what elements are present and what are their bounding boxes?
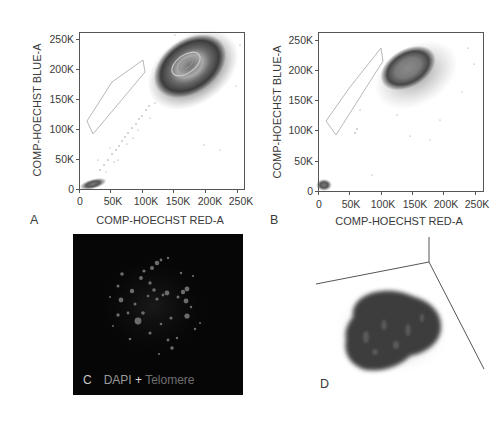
tick-label: 0 xyxy=(77,195,83,207)
tick-label: 200K xyxy=(49,63,74,75)
plot-a-y-axis-title: COMP-HOECHST BLUE-A xyxy=(31,43,43,177)
plot-b-x-axis-title: COMP-HOECHST RED-A xyxy=(335,215,463,227)
tick-label: 0 xyxy=(316,198,322,210)
tick-label: 50K xyxy=(55,153,74,165)
tick-label: 50K xyxy=(104,195,123,207)
caption-stain-telomere: Telomere xyxy=(145,373,194,387)
tick-label: 0 xyxy=(307,185,313,197)
telomere-foci xyxy=(73,234,243,395)
tick-label: 150K xyxy=(288,94,313,106)
tick-label: 150K xyxy=(166,195,191,207)
tick-label: 100K xyxy=(288,124,313,136)
tick-label: 0 xyxy=(68,183,74,195)
tick-label: 100K xyxy=(49,123,74,135)
tick-label: 100K xyxy=(371,198,396,210)
panel-c-micrograph: CDAPI + Telomere xyxy=(73,234,243,395)
panel-a-label: A xyxy=(30,213,39,227)
panel-c-label: C xyxy=(83,373,92,387)
plot-b-y-axis-title: COMP-HOECHST BLUE-A xyxy=(271,45,283,179)
tick-label: 250K xyxy=(49,33,74,45)
tick-label: 50K xyxy=(294,155,313,167)
tick-label: 250K xyxy=(465,198,490,210)
tick-label: 150K xyxy=(49,93,74,105)
caption-stain-dapi: DAPI xyxy=(104,373,132,387)
plot-b-x-tick-labels: 0 50K 100K 150K 200K 250K xyxy=(316,198,489,210)
tick-label: 250K xyxy=(229,195,254,207)
plot-b-y-tick-labels: 0 50K 100K 150K 200K 250K xyxy=(288,34,313,197)
caption-plus: + xyxy=(135,373,142,387)
tick-label: 150K xyxy=(403,198,428,210)
tick-label: 250K xyxy=(288,34,313,46)
panel-c-caption: CDAPI + Telomere xyxy=(83,373,195,387)
panel-b-label: B xyxy=(270,213,278,227)
tick-label: 200K xyxy=(198,195,223,207)
plot-a-x-axis-title: COMP-HOECHST RED-A xyxy=(96,214,224,226)
tick-label: 50K xyxy=(342,198,361,210)
plot-a-x-tick-labels: 0 50K 100K 150K 200K 250K xyxy=(77,195,253,207)
plot-a-y-tick-labels: 0 50K 100K 150K 200K 250K xyxy=(49,33,74,195)
tick-label: 200K xyxy=(288,64,313,76)
tick-label: 100K xyxy=(134,195,159,207)
tick-label: 200K xyxy=(434,198,459,210)
